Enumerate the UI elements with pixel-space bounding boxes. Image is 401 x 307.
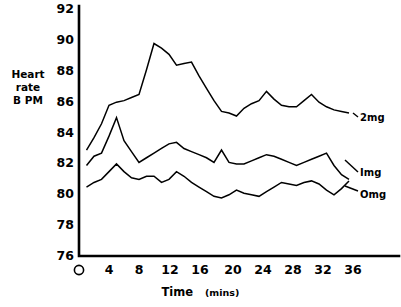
chart-axes xyxy=(79,6,399,256)
series-label-1mg: Img xyxy=(360,167,381,178)
x-axis-title: Time (mins) xyxy=(161,285,239,299)
y-axis-title-line1: Heart xyxy=(11,68,44,80)
y-tick-76: 76 xyxy=(57,248,75,263)
leader-line-1mg xyxy=(345,160,358,172)
x-tick-28: 28 xyxy=(284,262,301,277)
origin-marker-icon xyxy=(74,265,83,274)
y-tick-80: 80 xyxy=(57,186,75,201)
series-label-0mg: Omg xyxy=(360,189,386,200)
series-line-0mg xyxy=(87,164,350,198)
heart-rate-line-chart: 92 90 88 86 84 82 80 78 76 Heart rate B … xyxy=(0,0,401,307)
y-tick-86: 86 xyxy=(57,94,75,109)
x-axis-title-unit: (mins) xyxy=(205,287,239,298)
y-tick-90: 90 xyxy=(57,32,75,47)
leader-line-2mg xyxy=(353,113,358,117)
y-tick-78: 78 xyxy=(57,217,74,232)
y-tick-88: 88 xyxy=(57,63,74,78)
x-tick-12: 12 xyxy=(161,262,178,277)
series-line-1mg xyxy=(87,118,350,180)
x-tick-8: 8 xyxy=(135,262,144,277)
x-tick-36: 36 xyxy=(344,262,362,277)
x-tick-24: 24 xyxy=(254,262,272,277)
y-tick-82: 82 xyxy=(57,155,74,170)
y-tick-92: 92 xyxy=(57,1,74,16)
series-label-2mg: 2mg xyxy=(360,112,385,123)
leader-line-0mg xyxy=(345,186,358,191)
y-axis-title-line3: B PM xyxy=(13,94,43,106)
x-tick-32: 32 xyxy=(314,262,331,277)
y-axis-tick-labels: 92 90 88 86 84 82 80 78 76 xyxy=(57,1,75,263)
x-axis-tick-labels: 4 8 12 16 20 24 28 32 36 xyxy=(105,262,362,277)
y-axis-title: Heart rate B PM xyxy=(11,68,44,106)
y-tick-84: 84 xyxy=(57,125,75,140)
series-line-2mg xyxy=(87,44,350,151)
x-tick-20: 20 xyxy=(224,262,242,277)
x-tick-4: 4 xyxy=(105,262,114,277)
x-axis-title-main: Time xyxy=(161,285,193,299)
y-axis-title-line2: rate xyxy=(16,81,40,93)
chart-svg: 92 90 88 86 84 82 80 78 76 Heart rate B … xyxy=(0,0,401,307)
x-tick-16: 16 xyxy=(191,262,209,277)
